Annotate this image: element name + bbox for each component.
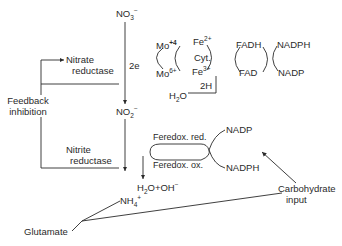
feedback-inhibition-label: Feedback inhibition: [6, 95, 50, 117]
ferredox-to-nadp-line: [209, 130, 225, 150]
water-hydroxide-label: H2O+OH−: [137, 182, 178, 193]
nitrate-label: NO3−: [116, 8, 138, 19]
fe-2plus-label: Fe2+: [193, 36, 212, 47]
mo-plus4-label: Mo+4: [156, 40, 177, 51]
carbohydrate-to-nadph-arrow: [262, 152, 296, 183]
fadh-label: FADH: [236, 39, 261, 50]
hydrogen-label: 2H: [200, 80, 212, 91]
glutamate-label: Glutamate: [24, 226, 68, 237]
nitrite-label: NO2−: [116, 106, 138, 117]
ferredoxin-oxidized-label: Feredox. ox.: [153, 160, 203, 171]
fad-right-bracket: [263, 47, 268, 72]
electron-label: 2e: [129, 60, 140, 71]
ferredoxin-reduced-label: Feredox. red.: [153, 132, 207, 143]
ammonium-label: NH4+: [120, 195, 141, 206]
nitrite-reductase-label: Nitrite reductase: [66, 144, 112, 166]
pathway-connectors: [0, 0, 342, 246]
nadph-upper-label: NADPH: [277, 39, 310, 50]
cytochrome-label: Cyt.: [194, 52, 211, 63]
ferredox-to-nadph-line: [209, 150, 225, 168]
carbohydrate-to-glutamate-line: [82, 193, 282, 221]
nadph-lower-label: NADPH: [226, 162, 259, 173]
water-label: H2O: [169, 90, 187, 101]
fe-3plus-label: Fe3+: [192, 66, 211, 77]
fad-label: FAD: [239, 67, 257, 78]
nitrate-reductase-label: Nitrate reductase: [66, 54, 114, 76]
mo-6plus-label: Mo6+: [156, 68, 177, 79]
nadp-upper-label: NADP: [278, 67, 304, 78]
ferredoxin-loop: [150, 144, 201, 160]
nadp-lower-label: NADP: [226, 124, 252, 135]
mo-bracket: [157, 48, 164, 69]
carbohydrate-input-label: Carbohydrate input: [278, 183, 336, 205]
